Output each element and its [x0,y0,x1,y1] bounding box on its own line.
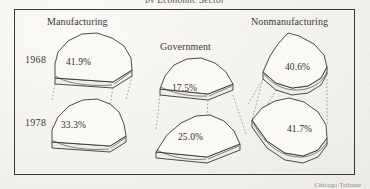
heading-manufacturing: Manufacturing [47,16,108,27]
value-government-1978: 25.0% [178,132,203,142]
figure-title: by Economic Sector [0,0,370,3]
heading-nonmanufacturing: Nonmanufacturing [251,16,328,27]
year-label-1978: 1978 [25,117,46,128]
value-government-1968: 17.5% [172,83,197,93]
value-manufacturing-1968: 41.9% [66,57,91,67]
value-nonmanufacturing-1978: 41.7% [287,124,312,134]
source-credit: Chicago Tribune [314,181,361,188]
heading-government: Government [160,41,211,52]
year-label-1968: 1968 [25,54,46,65]
value-manufacturing-1978: 33.3% [61,120,86,130]
value-nonmanufacturing-1968: 40.6% [285,62,310,72]
